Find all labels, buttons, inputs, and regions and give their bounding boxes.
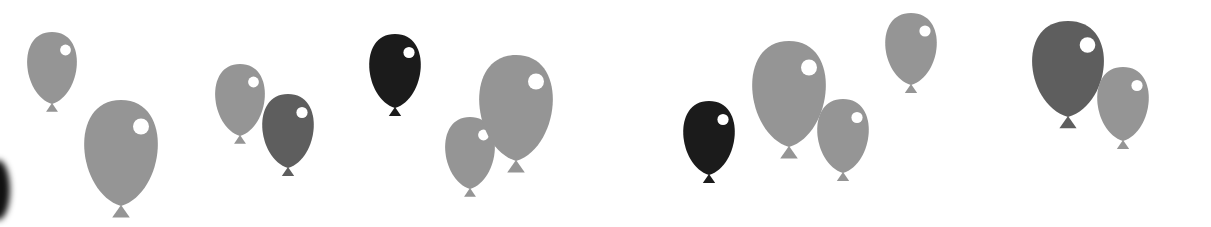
balloon-icon xyxy=(369,34,421,116)
balloon-icon xyxy=(752,41,826,158)
balloon-icon xyxy=(683,101,735,183)
balloon-icon xyxy=(1032,21,1104,128)
balloon-icon xyxy=(27,32,77,112)
balloon-icon xyxy=(84,100,158,217)
balloon-icon xyxy=(817,99,869,181)
balloon-icon xyxy=(215,64,265,144)
balloon-icon xyxy=(1097,67,1149,149)
balloons-scene xyxy=(0,0,1211,227)
balloon-icon xyxy=(262,94,314,176)
balloon-icon xyxy=(885,13,937,93)
